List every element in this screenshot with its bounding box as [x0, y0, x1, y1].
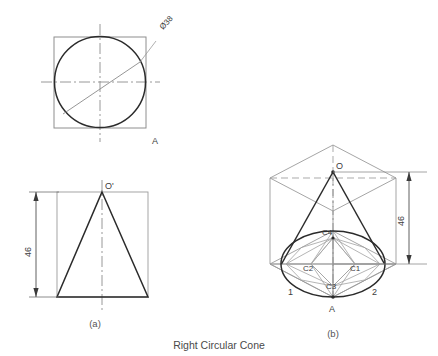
iso-height-dimension: 46 [396, 216, 406, 226]
iso-dim-arrow-bottom [406, 255, 411, 264]
front-view-rectangle [57, 192, 148, 297]
drawing-sheet: Ø38 A O' 46 (a) [0, 0, 438, 356]
iso-arc-center-label-c2: C2 [303, 264, 314, 273]
top-view-corner-label-a: A [152, 136, 158, 146]
iso-arc-center-label-c4: C4 [322, 228, 333, 237]
diameter-leader-line [63, 62, 140, 114]
front-view-dim-arrow-top [33, 192, 38, 201]
drawing-caption: Right Circular Cone [173, 339, 265, 351]
iso-arc-center-label-c3: C3 [326, 282, 337, 291]
front-view-height-dimension: 46 [23, 247, 33, 257]
iso-corner-label-1: 1 [288, 287, 293, 297]
iso-corner-label-2: 2 [372, 287, 377, 297]
front-view-apex-label: O' [105, 181, 114, 191]
iso-dim-arrow-top [406, 172, 411, 181]
iso-arc-center-label-c1: C1 [350, 264, 361, 273]
iso-base-front-point [331, 295, 335, 299]
iso-base-point-label-a: A [329, 304, 335, 314]
figure-label-a: (a) [89, 318, 101, 329]
top-view-group: Ø38 A [41, 14, 175, 146]
figure-label-b: (b) [327, 328, 339, 339]
front-view-group: O' 46 (a) [23, 180, 148, 329]
isometric-view-group: O C4 C2 C1 C3 1 2 A 46 (b) [270, 145, 427, 339]
diameter-leader-extension [140, 41, 156, 62]
front-view-dim-arrow-bottom [33, 288, 38, 297]
iso-apex-label: O [336, 161, 343, 171]
iso-cone-right-generator [333, 172, 385, 264]
front-view-cone-triangle [57, 192, 148, 297]
diameter-label: Ø38 [158, 14, 175, 32]
iso-cone-left-generator [282, 172, 334, 264]
engineering-drawing: Ø38 A O' 46 (a) [0, 0, 438, 356]
